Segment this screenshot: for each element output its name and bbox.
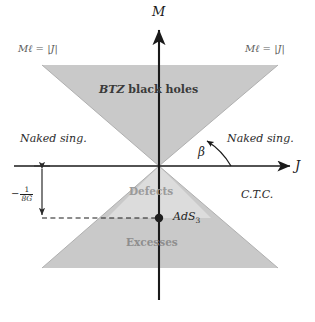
ads3-base: AdS <box>173 210 196 223</box>
cone-eq-right-absj: |J| <box>274 43 285 54</box>
cone-eq-left-m: M <box>18 43 28 54</box>
phase-diagram-figure: M J Mℓ = |J| Mℓ = |J| BTZ black holes Na… <box>0 0 315 322</box>
mass-gap-label: − 1 8G <box>11 186 33 203</box>
mass-gap-numerator: 1 <box>22 186 31 194</box>
region-label-defects: Defects <box>129 186 173 197</box>
btz-descriptor: black holes <box>128 83 198 96</box>
btz-acronym: BTZ <box>99 83 125 96</box>
beta-angle-label: β <box>198 146 205 158</box>
region-label-excesses: Excesses <box>126 237 178 248</box>
ads3-subscript: 3 <box>196 216 201 225</box>
mass-gap-fraction: 1 8G <box>20 186 33 203</box>
region-label-naked-singularity-left: Naked sing. <box>20 133 87 144</box>
region-label-ctc: C.T.C. <box>241 189 273 200</box>
mass-gap-sign: − <box>11 189 19 199</box>
cone-eq-left-equals: = <box>36 43 44 54</box>
axis-label-j: J <box>295 159 300 172</box>
cone-boundary-equation-right: Mℓ = |J| <box>245 44 285 54</box>
mass-gap-denominator: 8G <box>20 195 33 203</box>
cone-boundary-equation-left: Mℓ = |J| <box>18 44 58 54</box>
cone-eq-right-ell: ℓ <box>255 43 259 54</box>
mass-gap-measurement <box>34 166 50 215</box>
ads3-point-label: AdS3 <box>173 211 200 225</box>
ads3-point-marker <box>155 214 163 222</box>
cone-eq-right-equals: = <box>263 43 271 54</box>
axis-label-m: M <box>152 5 165 18</box>
region-label-btz-black-holes: BTZ black holes <box>99 84 198 95</box>
region-label-naked-singularity-right: Naked sing. <box>227 133 294 144</box>
cone-eq-right-m: M <box>245 43 255 54</box>
cone-eq-left-absj: |J| <box>47 43 58 54</box>
cone-eq-left-ell: ℓ <box>28 43 32 54</box>
